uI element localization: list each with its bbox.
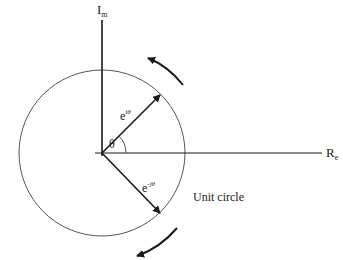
- real-label-main: R: [326, 145, 335, 160]
- unit-circle-label: Unit circle: [193, 190, 244, 205]
- lower-vector-label: e-jθ: [142, 180, 155, 196]
- lower-vector-exp: -jθ: [147, 180, 155, 188]
- upper-vector-label: eiθ: [120, 108, 131, 124]
- rotation-arrow-cw: [137, 228, 177, 256]
- imag-label-sub: m: [101, 10, 107, 19]
- upper-vector-exp: iθ: [125, 108, 130, 116]
- unit-circle-diagram: [0, 0, 343, 260]
- imaginary-axis-label: Im: [97, 2, 108, 19]
- real-label-sub: e: [335, 153, 339, 162]
- rotation-arrow-ccw: [148, 58, 183, 85]
- real-axis-label: Re: [326, 145, 338, 162]
- angle-arc: [119, 136, 126, 153]
- angle-label: θ: [109, 137, 115, 152]
